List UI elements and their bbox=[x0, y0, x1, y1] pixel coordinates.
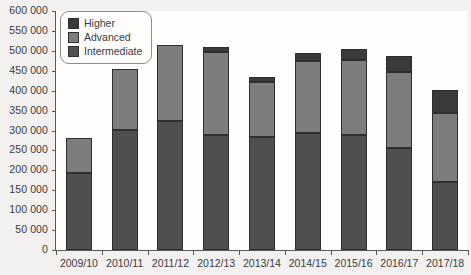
y-axis-tick-label: 150 000 bbox=[9, 183, 48, 195]
y-axis-tick-label: 500 000 bbox=[9, 44, 48, 56]
legend-label-higher: Higher bbox=[84, 17, 115, 29]
bar-segment-advanced[interactable] bbox=[341, 60, 367, 135]
x-axis-tick-label: 2011/12 bbox=[148, 257, 194, 269]
x-axis-tick-label: 2017/18 bbox=[422, 257, 468, 269]
y-axis-tick-mark bbox=[52, 51, 56, 52]
y-axis-tick-label: 300 000 bbox=[9, 124, 48, 136]
legend-item-intermediate: Intermediate bbox=[68, 44, 142, 58]
chart-legend: Higher Advanced Intermediate bbox=[60, 11, 152, 64]
bar-group[interactable] bbox=[157, 11, 183, 250]
y-axis-tick-label: 550 000 bbox=[9, 24, 48, 36]
x-axis-tick-label: 2016/17 bbox=[376, 257, 422, 269]
bar-segment-intermediate[interactable] bbox=[157, 121, 183, 250]
bar-segment-advanced[interactable] bbox=[112, 69, 138, 130]
bar-segment-intermediate[interactable] bbox=[66, 173, 92, 250]
bar-segment-higher[interactable] bbox=[249, 77, 275, 82]
y-axis-tick-label: 100 000 bbox=[9, 203, 48, 215]
x-axis-line bbox=[55, 250, 469, 251]
y-axis-tick-mark bbox=[52, 131, 56, 132]
legend-label-intermediate: Intermediate bbox=[84, 45, 142, 57]
x-axis-tick-mark bbox=[102, 251, 103, 255]
bar-segment-advanced[interactable] bbox=[66, 138, 92, 173]
legend-label-advanced: Advanced bbox=[84, 31, 131, 43]
x-axis-tick-mark bbox=[331, 251, 332, 255]
bar-segment-advanced[interactable] bbox=[295, 61, 321, 133]
bar-group[interactable] bbox=[432, 11, 458, 250]
x-axis-tick-mark bbox=[239, 251, 240, 255]
bar-group[interactable] bbox=[386, 11, 412, 250]
y-axis-tick-label: 450 000 bbox=[9, 64, 48, 76]
legend-swatch-higher bbox=[68, 18, 79, 29]
bar-group[interactable] bbox=[295, 11, 321, 250]
legend-item-advanced: Advanced bbox=[68, 30, 142, 44]
y-axis-tick-label: 350 000 bbox=[9, 104, 48, 116]
x-axis-tick-label: 2009/10 bbox=[56, 257, 102, 269]
bar-segment-intermediate[interactable] bbox=[341, 135, 367, 250]
bar-segment-advanced[interactable] bbox=[386, 72, 412, 148]
bar-segment-advanced[interactable] bbox=[249, 82, 275, 137]
bar-group[interactable] bbox=[249, 11, 275, 250]
x-axis-tick-label: 2010/11 bbox=[102, 257, 148, 269]
y-axis-tick-label: 250 000 bbox=[9, 143, 48, 155]
y-axis-tick-mark bbox=[52, 11, 56, 12]
x-axis-tick-mark bbox=[56, 251, 57, 255]
y-axis-tick-label: 50 000 bbox=[15, 223, 48, 235]
y-axis-tick-mark bbox=[52, 150, 56, 151]
x-axis-tick-mark bbox=[148, 251, 149, 255]
bar-segment-intermediate[interactable] bbox=[112, 130, 138, 250]
bar-segment-intermediate[interactable] bbox=[432, 182, 458, 250]
bar-segment-intermediate[interactable] bbox=[386, 148, 412, 250]
x-axis-tick-label: 2015/16 bbox=[331, 257, 377, 269]
x-axis-tick-mark bbox=[376, 251, 377, 255]
x-axis-tick-mark bbox=[468, 251, 469, 255]
legend-swatch-advanced bbox=[68, 32, 79, 43]
bar-segment-intermediate[interactable] bbox=[249, 137, 275, 250]
y-axis-tick-mark bbox=[52, 31, 56, 32]
y-axis-tick-mark bbox=[52, 230, 56, 231]
x-axis-tick-mark bbox=[422, 251, 423, 255]
y-axis-tick-label: 200 000 bbox=[9, 163, 48, 175]
bar-segment-higher[interactable] bbox=[386, 56, 412, 72]
bar-segment-intermediate[interactable] bbox=[203, 135, 229, 250]
bar-group[interactable] bbox=[203, 11, 229, 250]
bar-segment-advanced[interactable] bbox=[157, 45, 183, 121]
stacked-bar-chart: 050 000100 000150 000200 000250 000300 0… bbox=[0, 0, 471, 275]
bar-segment-advanced[interactable] bbox=[203, 52, 229, 135]
y-axis-tick-label: 600 000 bbox=[9, 4, 48, 16]
x-axis-tick-mark bbox=[285, 251, 286, 255]
bar-segment-higher[interactable] bbox=[203, 47, 229, 52]
bar-segment-higher[interactable] bbox=[295, 53, 321, 61]
x-axis-tick-mark bbox=[193, 251, 194, 255]
y-axis-tick-mark bbox=[52, 190, 56, 191]
y-axis-tick-mark bbox=[52, 91, 56, 92]
bar-segment-intermediate[interactable] bbox=[295, 133, 321, 250]
bar-segment-advanced[interactable] bbox=[432, 113, 458, 182]
y-axis-tick-label: 0 bbox=[42, 243, 48, 255]
y-axis-tick-mark bbox=[52, 111, 56, 112]
x-axis-tick-label: 2014/15 bbox=[285, 257, 331, 269]
x-axis-tick-label: 2012/13 bbox=[193, 257, 239, 269]
bar-group[interactable] bbox=[341, 11, 367, 250]
x-axis-tick-label: 2013/14 bbox=[239, 257, 285, 269]
y-axis-tick-mark bbox=[52, 210, 56, 211]
y-axis-tick-mark bbox=[52, 170, 56, 171]
bar-segment-higher[interactable] bbox=[432, 90, 458, 113]
legend-swatch-intermediate bbox=[68, 46, 79, 57]
legend-item-higher: Higher bbox=[68, 16, 142, 30]
bar-segment-higher[interactable] bbox=[341, 49, 367, 60]
y-axis-tick-mark bbox=[52, 71, 56, 72]
y-axis-tick-label: 400 000 bbox=[9, 84, 48, 96]
